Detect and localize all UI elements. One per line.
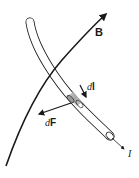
label-df: dF: [45, 117, 56, 128]
wire: [30, 22, 115, 141]
label-df-symbol: F: [50, 117, 56, 128]
current-arrow: [112, 138, 124, 149]
df-arrow: [39, 103, 71, 114]
label-current: I: [127, 148, 132, 159]
label-b: B: [95, 26, 103, 38]
dl-arrow: [80, 85, 86, 97]
label-dl: dl: [87, 81, 95, 92]
magnetic-force-diagram: B dl dF I: [0, 0, 139, 178]
label-dl-symbol: l: [92, 81, 95, 92]
